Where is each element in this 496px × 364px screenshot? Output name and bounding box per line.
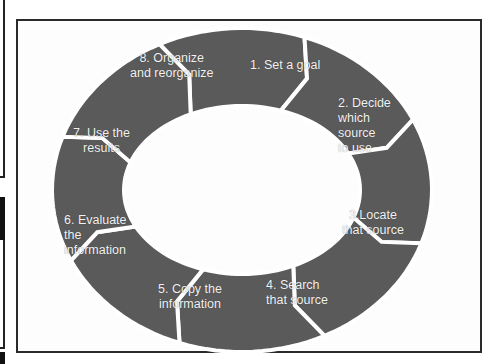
step-label-1: 1. Set a goal	[250, 58, 320, 73]
step-label-2: 2. Decide which source to use	[338, 96, 428, 156]
step-label-6: 6. Evaluate the information	[64, 213, 127, 258]
step-label-8: 8. Organize and reorganize	[130, 51, 213, 81]
cycle-diagram	[0, 0, 496, 364]
step-label-5: 5. Copy the information	[158, 282, 222, 312]
step-label-7: 7. Use the results	[73, 126, 130, 156]
step-label-3: 3.Locate that source	[342, 208, 404, 238]
step-label-4: 4. Search that source	[266, 278, 328, 308]
